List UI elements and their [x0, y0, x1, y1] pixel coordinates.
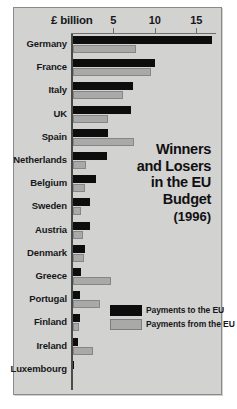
- bar-payments-from: [73, 161, 86, 169]
- bar-row-label: France: [36, 61, 67, 72]
- bar-row: UK: [14, 105, 221, 128]
- bar-row-label: Spain: [42, 131, 67, 142]
- bar-payments-to: [73, 268, 81, 276]
- bar-row: France: [14, 58, 221, 81]
- bar-row-label: Sweden: [32, 200, 67, 211]
- axis-tick-mark: [113, 28, 114, 33]
- bar-payments-to: [73, 245, 85, 253]
- bar-payments-from: [73, 207, 81, 215]
- chart-title: Winnersand Losersin the EUBudget: [89, 141, 211, 207]
- bar-payments-from: [73, 68, 151, 76]
- axis-tick-label: 10: [149, 14, 161, 26]
- bar-payments-from: [73, 45, 136, 53]
- bar-payments-to: [73, 106, 131, 114]
- bar-row-label: Italy: [48, 84, 67, 95]
- bar-row-label: Ireland: [37, 340, 67, 351]
- bar-payments-to: [73, 198, 90, 206]
- bar-row-label: Greece: [35, 270, 67, 281]
- bar-row: Germany: [14, 35, 221, 58]
- legend-item-payments-from: Payments from the EU: [110, 319, 218, 331]
- bar-payments-to: [73, 222, 90, 230]
- legend-label-payments-to: Payments to the EU: [146, 305, 224, 315]
- legend-swatch-payments-from-icon: [110, 319, 142, 330]
- chart-title-line: in the EU: [89, 174, 211, 191]
- bar-row-label: Belgium: [30, 177, 67, 188]
- legend-swatch-payments-to-icon: [110, 305, 142, 316]
- bar-payments-from: [73, 184, 85, 192]
- bar-payments-to: [73, 129, 108, 137]
- bar-row-label: UK: [53, 108, 67, 119]
- bar-payments-from: [73, 347, 93, 355]
- bar-payments-to: [73, 36, 212, 44]
- bar-payments-to: [73, 314, 80, 322]
- bar-payments-from: [73, 254, 84, 262]
- bar-row-label: Denmark: [27, 247, 67, 258]
- chart-title-year: (1996): [89, 208, 211, 225]
- bar-payments-to: [73, 361, 74, 369]
- chart-title-block: Winnersand Losersin the EUBudget (1996): [89, 141, 211, 225]
- bar-payments-from: [73, 300, 100, 308]
- bar-payments-to: [73, 291, 80, 299]
- bar-row-label: Finland: [34, 316, 67, 327]
- bar-row: Greece: [14, 267, 221, 290]
- bar-row-label: Austria: [35, 224, 67, 235]
- axis-tick-mark: [155, 28, 156, 33]
- bar-row-label: Netherlands: [13, 154, 67, 165]
- chart-title-line: Budget: [89, 191, 211, 208]
- bar-row: Italy: [14, 81, 221, 104]
- legend-label-payments-from: Payments from the EU: [146, 319, 235, 329]
- bar-payments-from: [73, 91, 123, 99]
- bar-payments-from: [73, 323, 79, 331]
- chart-title-line: Winners: [89, 141, 211, 158]
- bar-row-label: Portugal: [29, 293, 67, 304]
- bar-payments-to: [73, 338, 78, 346]
- bar-payments-to: [73, 59, 155, 67]
- axis-tick-label: 15: [190, 14, 202, 26]
- axis-unit-label: £ billion: [51, 14, 93, 26]
- bar-payments-to: [73, 82, 133, 90]
- bar-payments-from: [73, 277, 111, 285]
- chart-figure: £ billion 51015 GermanyFranceItalyUKSpai…: [13, 7, 222, 395]
- axis-tick-label: 5: [110, 14, 116, 26]
- chart-legend: Payments to the EU Payments from the EU: [110, 305, 218, 333]
- bar-payments-from: [73, 231, 83, 239]
- bar-row-label: Luxembourg: [10, 363, 67, 374]
- bar-row: Luxembourg: [14, 360, 221, 383]
- bar-row: Ireland: [14, 337, 221, 360]
- chart-title-line: and Losers: [89, 158, 211, 175]
- bar-payments-from: [73, 115, 108, 123]
- bar-row-label: Germany: [27, 38, 68, 49]
- legend-item-payments-to: Payments to the EU: [110, 305, 218, 317]
- bar-row: Denmark: [14, 244, 221, 267]
- axis-tick-mark: [196, 28, 197, 33]
